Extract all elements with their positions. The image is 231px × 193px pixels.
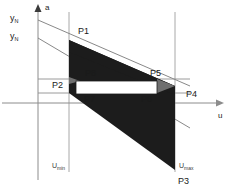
y-tick-lower-sub: N <box>15 36 19 42</box>
inner-hole-rect <box>76 81 157 94</box>
point-label-p1: P1 <box>78 27 89 36</box>
point-label-p4: P4 <box>186 90 197 99</box>
phase-diagram-figure: a u yN yN Umin Umax P1 P2 P3 P4 P5 P6 P7… <box>0 0 231 193</box>
a-axis-label: a <box>45 4 49 12</box>
y-tick-upper-label: yN <box>10 14 18 23</box>
y-tick-upper-base: y <box>10 13 15 23</box>
u-min-sub: min <box>57 165 65 171</box>
y-tick-lower-label: yN <box>10 32 18 41</box>
y-tick-lower-base: y <box>10 31 15 41</box>
point-label-p7: P7 <box>84 95 95 104</box>
a-axis-arrow-icon <box>35 4 42 12</box>
u-min-label: Umin <box>52 162 65 169</box>
point-label-p3: P3 <box>178 177 189 186</box>
point-label-p6: P6 <box>141 95 152 104</box>
point-label-p5: P5 <box>150 69 161 78</box>
u-max-sub: max <box>184 165 193 171</box>
point-label-p8: P8 <box>85 69 96 78</box>
y-tick-upper-sub: N <box>15 18 19 24</box>
point-label-p2: P2 <box>52 81 63 90</box>
feasible-region-polygon <box>69 40 175 170</box>
u-axis-label: u <box>218 112 222 120</box>
u-max-label: Umax <box>179 162 194 169</box>
u-axis-arrow-icon <box>216 100 224 107</box>
